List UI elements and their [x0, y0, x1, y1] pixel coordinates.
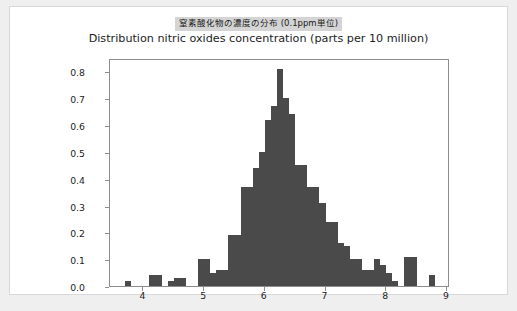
x-axis-tick-label: 8 — [365, 290, 405, 301]
x-axis-tick-label: 6 — [244, 290, 284, 301]
histogram-bar — [392, 281, 398, 286]
histogram-bar — [125, 281, 131, 286]
x-axis-tick-label: 5 — [183, 290, 223, 301]
plot-area — [109, 59, 449, 287]
chart-title: Distribution nitric oxides concentration… — [10, 32, 507, 45]
x-axis-tick-mark — [385, 287, 386, 291]
x-axis-tick-mark — [325, 287, 326, 291]
y-axis-tick-label: 0.4 — [45, 174, 85, 185]
japanese-title-container: 窒素酸化物の濃度の分布 (0.1ppm単位) — [10, 13, 507, 31]
y-axis-tick-label: 0.8 — [45, 67, 85, 78]
y-axis-tick-label: 0.1 — [45, 255, 85, 266]
y-axis-tick-label: 0.6 — [45, 121, 85, 132]
y-axis-tick-mark — [105, 287, 109, 288]
histogram-bar — [411, 257, 417, 287]
x-axis-tick-mark — [203, 287, 204, 291]
figure-card: 窒素酸化物の濃度の分布 (0.1ppm単位) Distribution nitr… — [9, 6, 508, 295]
x-axis-tick-label: 7 — [305, 290, 345, 301]
x-axis-tick-label: 4 — [122, 290, 162, 301]
x-axis-tick-mark — [446, 287, 447, 291]
y-axis-tick-label: 0.0 — [45, 282, 85, 293]
histogram-bar — [156, 275, 162, 286]
japanese-title: 窒素酸化物の濃度の分布 (0.1ppm単位) — [175, 17, 342, 31]
x-axis-tick-mark — [142, 287, 143, 291]
histogram-bar — [180, 278, 186, 286]
histogram-bar — [429, 275, 435, 286]
y-axis-tick-label: 0.5 — [45, 147, 85, 158]
x-axis-tick-label: 9 — [426, 290, 466, 301]
histogram-bars — [110, 60, 448, 286]
y-axis-tick-label: 0.3 — [45, 201, 85, 212]
y-axis-tick-label: 0.2 — [45, 228, 85, 239]
x-axis-tick-mark — [264, 287, 265, 291]
y-axis-tick-label: 0.7 — [45, 94, 85, 105]
